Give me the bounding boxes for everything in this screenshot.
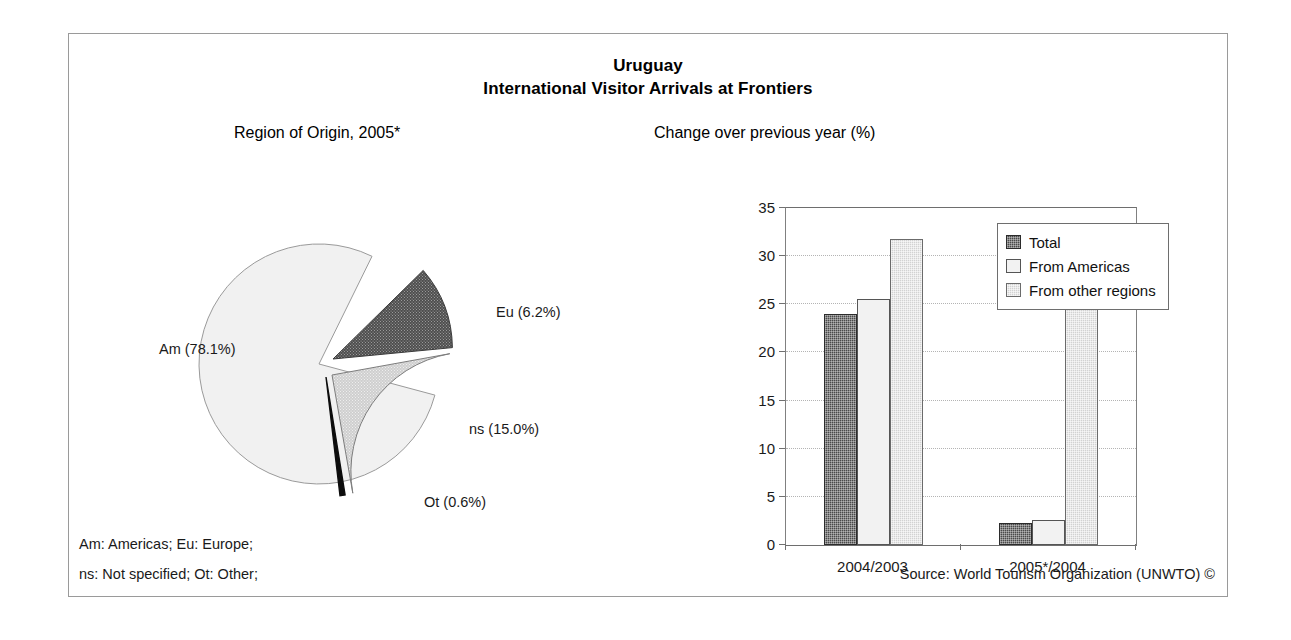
figure-title-country: Uruguay <box>69 56 1227 76</box>
bar-from-other-regions-2004-2003[interactable] <box>890 239 923 545</box>
figure-title-subject: International Visitor Arrivals at Fronti… <box>69 79 1227 99</box>
y-axis-tick-label: 10 <box>709 439 775 456</box>
y-axis-tick-label: 15 <box>709 391 775 408</box>
legend-label: From other regions <box>1029 282 1156 299</box>
y-axis-tick-label: 35 <box>709 199 775 216</box>
bar-total-2004-2003[interactable] <box>824 314 857 545</box>
x-axis-tick-mark <box>960 544 961 550</box>
y-axis-tick-label: 20 <box>709 343 775 360</box>
legend-item[interactable]: From Americas <box>1006 254 1156 278</box>
pie-label-am: Am (78.1%) <box>159 341 236 357</box>
y-axis-tick-label: 30 <box>709 247 775 264</box>
pie-label-eu: Eu (6.2%) <box>496 304 560 320</box>
bar-chart-title: Change over previous year (%) <box>654 124 875 142</box>
footnote-abbreviations-line2: ns: Not specified; Ot: Other; <box>79 566 258 582</box>
y-axis-tick-label: 0 <box>709 536 775 553</box>
pie-label-ns: ns (15.0%) <box>469 421 539 437</box>
bar-chart-panel: 05101520253035 2004/20032005*/2004 Total… <box>709 189 1169 589</box>
legend-swatch-icon <box>1006 259 1021 273</box>
pie-label-ot: Ot (0.6%) <box>424 494 486 510</box>
legend-swatch-icon <box>1006 235 1021 249</box>
figure-frame: Uruguay International Visitor Arrivals a… <box>68 33 1228 597</box>
x-axis-tick-mark <box>785 544 786 550</box>
pie-chart-panel: Am (78.1%) Eu (6.2%) ns (15.0%) Ot (0.6%… <box>69 149 669 549</box>
bar-from-other-regions-2005-2004[interactable] <box>1065 304 1098 545</box>
bar-from-americas-2004-2003[interactable] <box>857 299 890 545</box>
bar-chart-legend: TotalFrom AmericasFrom other regions <box>997 223 1169 310</box>
x-axis-category-label: 2004/2003 <box>837 558 908 575</box>
x-axis-tick-mark <box>1135 544 1136 550</box>
source-note: Source: World Tourism Organization (UNWT… <box>900 566 1215 582</box>
bar-total-2005-2004[interactable] <box>999 523 1032 545</box>
legend-swatch-icon <box>1006 283 1021 297</box>
legend-item[interactable]: From other regions <box>1006 278 1156 302</box>
legend-label: Total <box>1029 234 1061 251</box>
legend-label: From Americas <box>1029 258 1130 275</box>
y-axis-tick-label: 5 <box>709 487 775 504</box>
bar-from-americas-2005-2004[interactable] <box>1032 520 1065 545</box>
footnote-abbreviations-line1: Am: Americas; Eu: Europe; <box>79 536 253 552</box>
legend-item[interactable]: Total <box>1006 230 1156 254</box>
y-axis-tick-label: 25 <box>709 295 775 312</box>
pie-chart-title: Region of Origin, 2005* <box>234 124 400 142</box>
